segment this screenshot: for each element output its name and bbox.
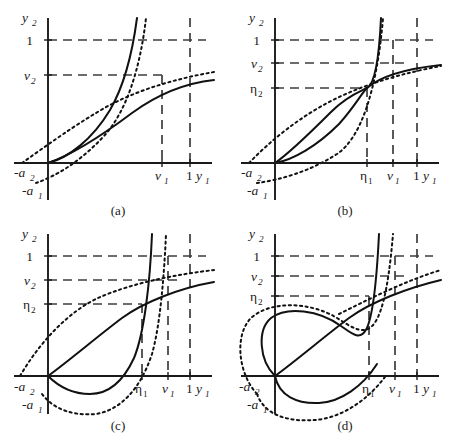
ytick-label-v2-sub-d: 2: [258, 277, 263, 287]
neg-label-a1-sub-d: 1: [263, 405, 268, 415]
xtick-label-1-b: 1: [413, 168, 420, 183]
ytick-label-eta2-b: η: [250, 81, 257, 96]
ytick-label-v2-sub-a: 2: [31, 76, 36, 86]
xtick-label-eta1-b: η: [360, 168, 367, 183]
neg-label-a1-d: -a: [247, 397, 258, 412]
xtick-label-v1-sub-d: 1: [397, 389, 402, 399]
x-axis-label-sub-d: 1: [432, 389, 437, 399]
ytick-label-v2-d: v: [251, 269, 257, 284]
ytick-label-eta2-sub-d: 2: [258, 297, 263, 307]
ytick-label-v2-b: v: [251, 56, 257, 71]
neg-label-a1-b: -a: [247, 183, 258, 198]
curve-solid-rising: [275, 280, 441, 376]
panel-a-plot: y 2 y 1 1 v 2 v 1 1 -a 2 -a 1 (a): [0, 0, 226, 220]
xtick-label-eta1-c: η: [135, 381, 142, 396]
curve-solid-dipping: [48, 234, 152, 394]
ytick-label-1-d: 1: [253, 249, 260, 264]
xtick-label-v1-sub-a: 1: [164, 176, 169, 186]
neg-label-a2-sub-d: 2: [255, 387, 260, 397]
xtick-label-v1-c: v: [162, 381, 168, 396]
panel-d-plot: y 2 y 1 1 v 2 η 2 η 1 v 1 1 -a 2 -a 1 (d…: [227, 218, 453, 438]
xtick-label-v1-sub-b: 1: [395, 176, 400, 186]
y-axis-label-sub-b: 2: [259, 18, 264, 28]
panel-b: y 2 y 1 1 v 2 η 2 η 1 v 1 1 -a 2 -a 1 (b…: [227, 0, 453, 220]
neg-label-a2-sub-c: 2: [30, 387, 35, 397]
neg-label-a1-c: -a: [22, 397, 33, 412]
neg-label-a2-sub-a: 2: [30, 173, 35, 183]
panel-c-plot: y 2 y 1 1 v 2 η 2 η 1 v 1 1 -a 2 -a 1 (c…: [0, 218, 226, 438]
neg-label-a2-b: -a: [241, 165, 252, 180]
xtick-label-v1-b: v: [387, 168, 393, 183]
xtick-label-1-c: 1: [186, 381, 193, 396]
y-axis-label-b: y: [247, 10, 255, 25]
y-axis-label-sub-c: 2: [32, 234, 37, 244]
y-axis-label-d: y: [247, 226, 255, 241]
ytick-label-eta2-d: η: [250, 289, 257, 304]
panel-a: y 2 y 1 1 v 2 v 1 1 -a 2 -a 1 (a): [0, 0, 226, 220]
xtick-label-v1-a: v: [155, 168, 161, 183]
ytick-label-eta2-c: η: [23, 297, 30, 312]
neg-label-a2-c: -a: [14, 379, 25, 394]
neg-label-a2-a: -a: [14, 165, 25, 180]
ytick-label-1-a: 1: [26, 33, 33, 48]
curve-dotted-lower: [36, 18, 146, 183]
ytick-label-v2-sub-b: 2: [258, 64, 263, 74]
ytick-label-eta2-sub-c: 2: [31, 305, 36, 315]
xtick-label-v1-sub-c: 1: [170, 389, 175, 399]
neg-label-a1-a: -a: [22, 183, 33, 198]
panel-caption-c: (c): [111, 418, 125, 433]
curve-dotted-dipping: [42, 234, 166, 414]
x-axis-label-a: y: [194, 168, 202, 183]
xtick-label-eta1-sub-b: 1: [368, 176, 373, 186]
figure-container: y 2 y 1 1 v 2 v 1 1 -a 2 -a 1 (a): [0, 0, 453, 440]
ytick-label-1-b: 1: [253, 33, 260, 48]
ytick-label-eta2-sub-b: 2: [258, 89, 263, 99]
x-axis-label-b: y: [421, 168, 429, 183]
y-axis-label-sub-a: 2: [32, 18, 37, 28]
x-axis-label-sub-a: 1: [205, 176, 210, 186]
ytick-label-1-c: 1: [26, 249, 33, 264]
panel-caption-b: (b): [337, 203, 352, 218]
panel-caption-d: (d): [337, 418, 352, 433]
panel-d: y 2 y 1 1 v 2 η 2 η 1 v 1 1 -a 2 -a 1 (d…: [227, 218, 453, 438]
neg-label-a1-sub-b: 1: [263, 191, 268, 201]
neg-label-a1-sub-a: 1: [38, 191, 43, 201]
x-axis-label-sub-c: 1: [205, 389, 210, 399]
panel-b-plot: y 2 y 1 1 v 2 η 2 η 1 v 1 1 -a 2 -a 1 (b…: [227, 0, 453, 220]
neg-label-a2-sub-b: 2: [257, 173, 262, 183]
xtick-label-v1-d: v: [389, 381, 395, 396]
ytick-label-v2-sub-c: 2: [31, 281, 36, 291]
xtick-label-eta1-d: η: [362, 381, 369, 396]
neg-label-a1-sub-c: 1: [38, 405, 43, 415]
panel-caption-a: (a): [111, 203, 125, 218]
y-axis-label-c: y: [20, 226, 28, 241]
xtick-label-eta1-sub-d: 1: [370, 389, 375, 399]
ytick-label-v2-a: v: [24, 68, 30, 83]
curve-solid-sigmoid-flat: [275, 65, 441, 163]
xtick-label-1-a: 1: [186, 168, 193, 183]
x-axis-label-d: y: [421, 381, 429, 396]
xtick-label-eta1-sub-c: 1: [143, 389, 148, 399]
ytick-label-v2-c: v: [24, 273, 30, 288]
y-axis-label-sub-d: 2: [259, 234, 264, 244]
xtick-label-1-d: 1: [413, 381, 420, 396]
panel-c: y 2 y 1 1 v 2 η 2 η 1 v 1 1 -a 2 -a 1 (c…: [0, 218, 226, 438]
y-axis-label-a: y: [20, 10, 28, 25]
x-axis-label-c: y: [194, 381, 202, 396]
x-axis-label-sub-b: 1: [432, 176, 437, 186]
neg-label-a2-d: -a: [239, 379, 250, 394]
